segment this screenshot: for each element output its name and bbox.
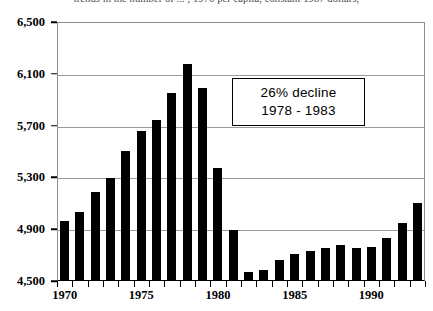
x-axis-tick [333, 281, 334, 287]
y-axis-label: 6,500 [17, 15, 45, 30]
x-axis-tick [410, 281, 411, 287]
bar [290, 254, 299, 280]
bar-series [58, 23, 424, 280]
x-axis-tick [180, 281, 181, 287]
bar [106, 178, 115, 280]
bar [152, 120, 161, 280]
x-axis-tick [364, 281, 365, 287]
bar [321, 248, 330, 280]
bar [198, 88, 207, 280]
x-axis-tick [195, 281, 196, 287]
x-axis-tick [256, 281, 257, 287]
x-axis-tick [425, 281, 426, 287]
x-axis-tick [318, 281, 319, 287]
x-axis-tick [226, 281, 227, 287]
bar [398, 223, 407, 280]
x-axis-tick [103, 281, 104, 287]
y-axis-label: 5,300 [17, 170, 45, 185]
bar [413, 203, 422, 280]
x-axis-tick [134, 281, 135, 287]
x-axis-tick [272, 281, 273, 287]
y-axis-label: 4,500 [17, 274, 45, 289]
x-axis-tick [241, 281, 242, 287]
x-axis-tick [302, 281, 303, 287]
bar [367, 247, 376, 280]
annotation-line-1: 26% decline [261, 85, 337, 102]
x-axis-tick [72, 281, 73, 287]
y-axis-label: 4,900 [17, 222, 45, 237]
bar-chart: trends in the number of ... , 1970 per c… [0, 0, 433, 311]
annotation-line-2: 1978 - 1983 [261, 103, 335, 120]
x-axis-label: 1980 [206, 288, 231, 303]
bar [259, 270, 268, 280]
x-axis-label: 1970 [52, 288, 77, 303]
bar [244, 272, 253, 280]
bar [75, 212, 84, 280]
bar [121, 151, 130, 280]
bar [229, 230, 238, 280]
bar [167, 93, 176, 280]
bar [275, 260, 284, 280]
x-axis-tick [164, 281, 165, 287]
bar [336, 245, 345, 280]
x-axis-tick [88, 281, 89, 287]
bar [306, 251, 315, 280]
x-axis-tick [210, 281, 211, 287]
x-axis-ticks [57, 281, 425, 288]
bar [382, 238, 391, 280]
x-axis-label: 1990 [359, 288, 384, 303]
plot-area [57, 22, 425, 281]
x-axis-tick [57, 281, 58, 287]
x-axis-tick [287, 281, 288, 287]
x-axis-tick [379, 281, 380, 287]
bar [213, 168, 222, 280]
annotation-callout: 26% decline 1978 - 1983 [232, 78, 365, 126]
x-axis-tick [348, 281, 349, 287]
x-axis-tick [118, 281, 119, 287]
y-axis-label: 5,700 [17, 118, 45, 133]
y-axis: 6,500 6,100 5,700 5,300 4,900 4,500 [0, 0, 57, 311]
chart-title: trends in the number of ... , 1970 per c… [0, 0, 433, 5]
x-axis-label: 1985 [282, 288, 307, 303]
y-axis-label: 6,100 [17, 66, 45, 81]
bar [91, 192, 100, 280]
bar [352, 248, 361, 280]
bar [60, 221, 69, 280]
bar [183, 64, 192, 280]
x-axis: 19701975198019851990 [0, 288, 433, 308]
x-axis-tick [394, 281, 395, 287]
x-axis-label: 1975 [129, 288, 154, 303]
bar [137, 131, 146, 280]
x-axis-tick [149, 281, 150, 287]
